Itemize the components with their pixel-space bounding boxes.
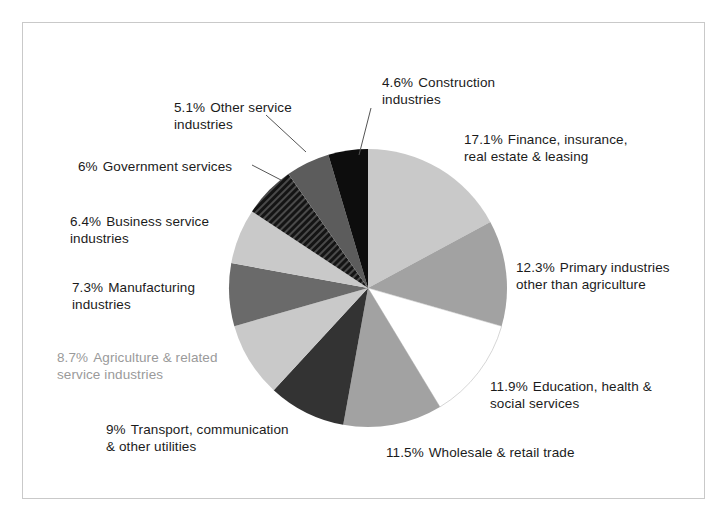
- label-wholesale-pct: 11.5%: [386, 445, 424, 460]
- label-agriculture-text2: service industries: [57, 367, 163, 382]
- label-government: 6%Government services: [78, 158, 232, 175]
- label-other-service-pct: 5.1%: [174, 100, 205, 115]
- label-business-pct: 6.4%: [70, 214, 101, 229]
- label-finance-text: Finance, insurance,: [508, 132, 628, 147]
- label-government-pct: 6%: [78, 159, 98, 174]
- label-business-text2: industries: [70, 231, 129, 246]
- label-transport-pct: 9%: [106, 422, 126, 437]
- label-wholesale-text: Wholesale & retail trade: [429, 445, 575, 460]
- label-education: 11.9%Education, health & social services: [490, 378, 652, 412]
- label-construction: 4.6%Construction industries: [382, 74, 495, 108]
- label-agriculture: 8.7%Agriculture & related service indust…: [57, 349, 218, 383]
- label-primary-industries: 12.3%Primary industries other than agric…: [516, 259, 670, 293]
- label-other-service-text2: industries: [174, 117, 233, 132]
- label-wholesale: 11.5%Wholesale & retail trade: [386, 444, 575, 461]
- label-primary-text: Primary industries: [560, 260, 670, 275]
- label-government-text: Government services: [103, 159, 232, 174]
- label-finance-text2: real estate & leasing: [464, 149, 588, 164]
- leader-line-construction: [359, 108, 371, 155]
- label-other-service-text: Other service: [210, 100, 292, 115]
- label-education-pct: 11.9%: [490, 379, 528, 394]
- label-agriculture-pct: 8.7%: [57, 350, 88, 365]
- label-other-service: 5.1%Other service industries: [174, 99, 292, 133]
- label-transport-text: Transport, communication: [131, 422, 289, 437]
- label-education-text2: social services: [490, 396, 579, 411]
- label-business-service: 6.4%Business service industries: [70, 213, 209, 247]
- label-education-text: Education, health &: [533, 379, 652, 394]
- label-agriculture-text: Agriculture & related: [93, 350, 217, 365]
- label-primary-pct: 12.3%: [516, 260, 555, 275]
- label-finance: 17.1%Finance, insurance, real estate & l…: [464, 131, 628, 165]
- label-construction-text2: industries: [382, 92, 441, 107]
- leader-line-government: [252, 165, 281, 180]
- label-manufacturing-text2: industries: [72, 297, 131, 312]
- label-construction-pct: 4.6%: [382, 75, 413, 90]
- label-transport-text2: & other utilities: [106, 439, 196, 454]
- label-transport: 9%Transport, communication & other utili…: [106, 421, 289, 455]
- label-finance-pct: 17.1%: [464, 132, 503, 147]
- label-construction-text: Construction: [418, 75, 495, 90]
- pie-slice-group: [229, 149, 507, 427]
- figure-panel: 4.6%Construction industries 17.1%Finance…: [0, 0, 721, 520]
- label-manufacturing-text: Manufacturing: [108, 280, 195, 295]
- label-manufacturing: 7.3%Manufacturing industries: [72, 279, 195, 313]
- label-primary-text2: other than agriculture: [516, 277, 646, 292]
- label-business-text: Business service: [106, 214, 209, 229]
- label-manufacturing-pct: 7.3%: [72, 280, 103, 295]
